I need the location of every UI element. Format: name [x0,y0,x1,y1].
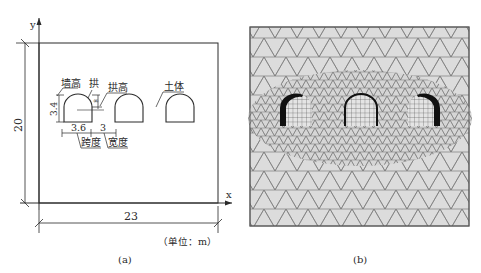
wall-height-value: 3.4 [49,101,59,116]
tunnel-2 [115,94,143,122]
height-dimension-value: 20 [12,118,25,132]
figure-canvas: y x 20 23 3.4 [0,0,481,273]
wall-height-label: 墙高 [61,77,81,89]
caption-b: (b) [353,254,367,265]
span-label: 跨度 [81,136,101,148]
width-dimension-value: 23 [124,210,138,223]
tunnel-1 [64,94,92,122]
panel-b: (b) [248,27,472,265]
arch-rise-value: ∞ [93,97,99,105]
spacing-label: 宽度 [108,136,128,148]
span-value: 3.6 [71,122,86,133]
mesh-tunnel-3 [408,94,440,126]
panel-a: y x 20 23 3.4 [12,18,232,265]
y-axis-label: y [29,19,36,30]
spacing-value: 3 [100,122,106,133]
arch-label: 拱 [89,77,99,89]
caption-a: (a) [118,254,132,265]
x-axis-label: x [226,189,232,200]
tunnel-3 [166,94,194,122]
soil-label: 土体 [164,80,184,92]
unit-note: （单位：m） [158,236,217,247]
soil-domain-boundary [39,43,218,203]
arch-rise-label: 拱高 [108,81,128,93]
mesh-tunnel-1 [280,94,312,126]
mesh-tunnel-2 [345,94,377,126]
